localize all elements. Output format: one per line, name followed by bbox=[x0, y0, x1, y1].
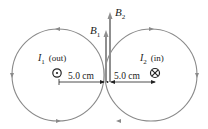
midpoint-marker bbox=[107, 81, 109, 83]
magnetic-field-diagram: B1 B2 I1(out) I2(in) 5.0 cm 5.0 cm bbox=[0, 0, 208, 129]
distance-right-label: 5.0 cm bbox=[114, 71, 140, 81]
dot-out-of-page-icon bbox=[53, 69, 61, 77]
field-arrow-bottom-left-icon bbox=[56, 119, 61, 123]
label-b2: B2 bbox=[115, 6, 126, 21]
field-arrow-left-left-icon bbox=[10, 73, 14, 78]
field-arrow-top-right-icon bbox=[149, 27, 154, 31]
label-b1: B1 bbox=[90, 24, 101, 39]
field-arrow-bottom-right-icon bbox=[116, 119, 121, 123]
cross-into-page-icon bbox=[151, 69, 160, 78]
vector-b2 bbox=[108, 12, 113, 82]
label-i2: I2(in) bbox=[139, 52, 164, 66]
vector-b2-arrowhead-icon bbox=[108, 12, 113, 19]
field-arrow-right-right-icon bbox=[195, 73, 199, 78]
dimension-left-arrowhead-icon bbox=[100, 80, 105, 84]
label-i1: I1(out) bbox=[37, 52, 66, 66]
field-arrow-top-left-icon bbox=[55, 27, 60, 31]
dimension-right-arrowhead-icon bbox=[151, 80, 156, 84]
vector-b1-arrowhead-icon bbox=[104, 30, 109, 37]
distance-left-label: 5.0 cm bbox=[68, 71, 94, 81]
